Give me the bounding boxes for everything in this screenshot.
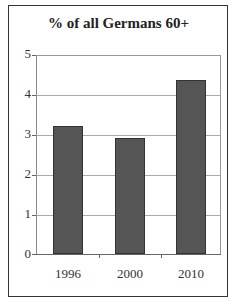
y-tick-mark [32, 215, 36, 216]
y-tick-mark [32, 175, 36, 176]
y-tick-mark [32, 135, 36, 136]
y-tick-label: 4 [19, 87, 31, 101]
bar-2010 [176, 80, 206, 254]
y-tick-label: 0 [19, 247, 31, 261]
x-label-2010: 2010 [166, 266, 216, 282]
y-tick-mark [32, 55, 36, 56]
x-tick-mark [161, 254, 162, 258]
x-axis [36, 254, 221, 255]
x-label-2000: 2000 [105, 266, 155, 282]
chart-title: % of all Germans 60+ [0, 15, 237, 32]
x-tick-mark [99, 254, 100, 258]
y-tick-label: 5 [19, 47, 31, 61]
y-tick-label: 2 [19, 167, 31, 181]
x-label-1996: 1996 [43, 266, 93, 282]
y-tick-label: 1 [19, 207, 31, 221]
y-tick-mark [32, 95, 36, 96]
y-tick-label: 3 [19, 127, 31, 141]
bar-1996 [53, 126, 83, 254]
y-tick-mark [32, 254, 36, 255]
bar-2000 [115, 138, 145, 254]
